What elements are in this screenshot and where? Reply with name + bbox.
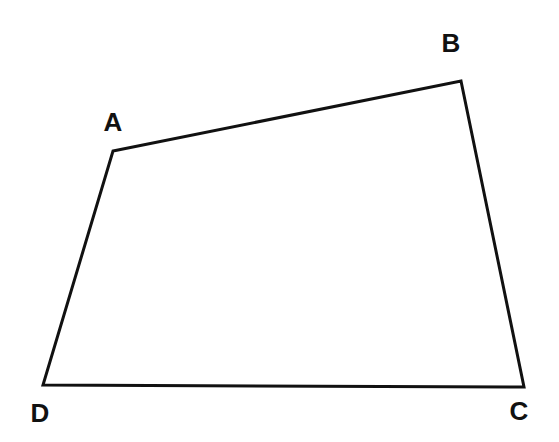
vertex-label-a: A — [104, 107, 123, 137]
vertex-label-c: C — [510, 396, 529, 426]
diagram-canvas: A B C D — [0, 0, 559, 442]
quadrilateral-abcd: A B C D — [0, 0, 559, 442]
vertex-label-d: D — [31, 398, 50, 428]
vertex-label-b: B — [442, 28, 461, 58]
